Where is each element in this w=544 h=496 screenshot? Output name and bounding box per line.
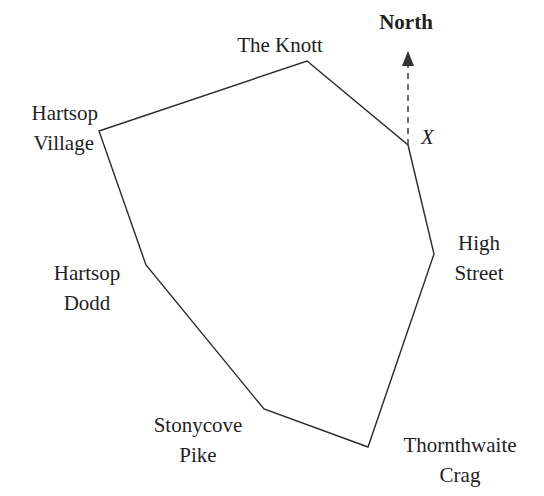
route-diagram: North X The Knott Hartsop Village Hartso… bbox=[0, 0, 544, 496]
thornthwaite-crag-label-line1: Thornthwaite bbox=[403, 433, 516, 457]
stonycove-pike-label-line1: Stonycove bbox=[154, 413, 243, 437]
thornthwaite-crag-label-line2: Crag bbox=[440, 463, 481, 487]
north-label: North bbox=[379, 10, 433, 34]
the-knott-label: The Knott bbox=[237, 33, 323, 57]
high-street-label-line1: High bbox=[458, 231, 501, 255]
hartsop-dodd-label-line1: Hartsop bbox=[54, 261, 121, 285]
high-street-label-line2: Street bbox=[455, 261, 504, 285]
hartsop-village-label-line2: Village bbox=[33, 131, 94, 155]
hartsop-dodd-label-line2: Dodd bbox=[64, 291, 111, 315]
north-arrowhead-icon bbox=[402, 51, 414, 66]
route-polygon bbox=[99, 61, 434, 447]
stonycove-pike-label-line2: Pike bbox=[179, 443, 216, 467]
x-point-label: X bbox=[420, 125, 435, 149]
hartsop-village-label-line1: Hartsop bbox=[32, 101, 99, 125]
